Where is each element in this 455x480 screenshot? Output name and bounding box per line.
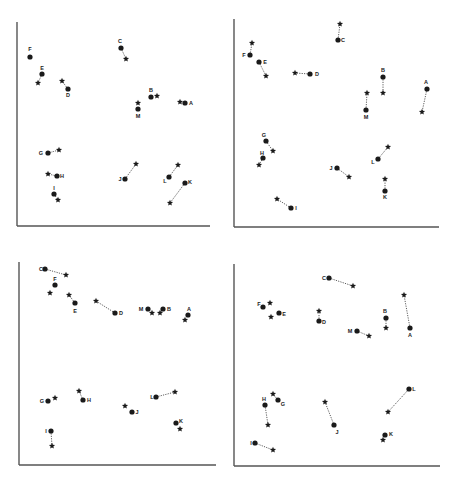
dot-marker: [331, 422, 336, 427]
point-label: B: [167, 306, 171, 312]
point-label: G: [39, 150, 43, 156]
point-label: A: [424, 79, 428, 85]
dot-marker: [326, 275, 331, 280]
dot-marker: [185, 312, 190, 317]
point-J: J: [122, 403, 139, 415]
point-B: B: [157, 306, 171, 315]
connector-line: [156, 392, 175, 397]
star-marker: [385, 409, 391, 415]
point-D: D: [292, 70, 319, 77]
point-label: M: [139, 306, 144, 312]
point-M: M: [363, 90, 370, 120]
dot-marker: [54, 173, 59, 178]
point-label: B: [381, 67, 385, 73]
dot-marker: [288, 205, 293, 210]
dot-marker: [252, 440, 257, 445]
point-label: J: [329, 165, 332, 171]
dot-marker: [51, 191, 56, 196]
connector-line: [404, 295, 410, 328]
dot-marker: [407, 325, 412, 330]
point-B: B: [383, 308, 389, 330]
dot-marker: [72, 300, 77, 305]
scatter-panel-top-right: ABCDEFGHIJKLM: [234, 19, 439, 227]
scatter-figure: ABCDEFGHIJKLMABCDEFGHIJKLMABCDEFGHIJKLMA…: [0, 0, 455, 480]
point-label: L: [371, 159, 375, 165]
connector-line: [255, 443, 273, 450]
point-label: A: [189, 100, 193, 106]
star-marker: [47, 290, 53, 296]
star-marker: [182, 317, 188, 323]
dot-marker: [406, 386, 411, 391]
star-marker: [122, 403, 128, 409]
point-E: E: [35, 65, 45, 85]
point-C: C: [322, 275, 356, 288]
star-marker: [175, 162, 181, 168]
point-label: C: [39, 266, 43, 272]
dot-marker: [166, 174, 171, 179]
dot-marker: [182, 100, 187, 105]
point-L: L: [385, 386, 416, 414]
point-G: G: [39, 147, 62, 156]
point-E: E: [256, 59, 269, 78]
point-label: C: [341, 37, 345, 43]
point-H: H: [45, 171, 64, 179]
dot-marker: [27, 54, 32, 59]
point-label: K: [179, 418, 183, 424]
star-marker: [383, 325, 389, 331]
point-L: L: [371, 144, 391, 165]
point-M: M: [139, 306, 155, 315]
dot-marker: [380, 74, 385, 79]
point-label: J: [335, 429, 338, 435]
star-marker: [123, 56, 129, 62]
point-label: C: [118, 38, 122, 44]
star-marker: [270, 447, 276, 453]
point-label: C: [322, 275, 326, 281]
point-I: I: [51, 185, 61, 202]
point-K: K: [380, 431, 393, 442]
star-marker: [256, 162, 262, 168]
dot-marker: [153, 394, 158, 399]
dot-marker: [316, 318, 321, 323]
point-A: A: [177, 99, 193, 106]
point-I: I: [274, 196, 297, 211]
star-marker: [380, 437, 386, 443]
point-label: J: [135, 409, 138, 415]
dot-marker: [263, 138, 268, 143]
star-marker: [267, 300, 273, 306]
point-label: J: [118, 176, 121, 182]
point-label: A: [187, 306, 191, 312]
point-I: I: [250, 440, 276, 452]
point-A: A: [419, 79, 430, 114]
dot-marker: [363, 107, 368, 112]
dot-marker: [182, 180, 187, 185]
dot-marker: [307, 71, 312, 76]
star-marker: [380, 90, 386, 96]
connector-line: [325, 402, 334, 425]
star-marker: [350, 283, 356, 289]
dot-marker: [80, 397, 85, 402]
point-M: M: [348, 328, 372, 338]
dot-marker: [48, 428, 53, 433]
point-label: E: [263, 59, 267, 65]
point-M: M: [135, 100, 141, 119]
star-marker: [133, 161, 139, 167]
star-marker: [177, 99, 183, 105]
point-label: K: [188, 179, 192, 185]
star-marker: [45, 171, 51, 177]
star-marker: [274, 196, 280, 202]
dot-marker: [135, 106, 140, 111]
point-E: E: [66, 292, 78, 314]
dot-marker: [65, 86, 70, 91]
point-label: M: [364, 114, 369, 120]
connector-line: [96, 301, 115, 313]
star-marker: [366, 333, 372, 339]
star-marker: [49, 443, 55, 449]
dot-marker: [275, 397, 280, 402]
dot-marker: [42, 266, 47, 271]
point-A: A: [182, 306, 191, 322]
point-C: C: [335, 21, 345, 43]
star-marker: [52, 395, 58, 401]
dot-marker: [354, 328, 359, 333]
point-label: B: [383, 308, 387, 314]
point-H: H: [256, 150, 266, 167]
